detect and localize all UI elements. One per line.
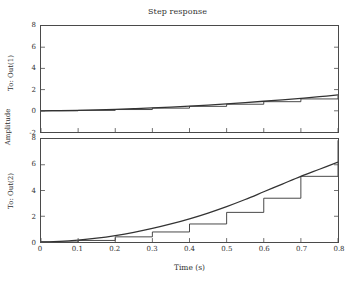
chart-title: Step response xyxy=(0,7,355,16)
y-tick-label: 4 xyxy=(6,64,36,72)
x-tick-label: 0.6 xyxy=(249,245,279,253)
y-tick-label: 2 xyxy=(6,86,36,94)
subplot-out1-plot-area xyxy=(40,25,339,133)
x-axis-label: Time (s) xyxy=(40,263,339,272)
subplot-out2-canvas xyxy=(41,139,338,242)
x-tick-label: 0.3 xyxy=(137,245,167,253)
subplot-out1-canvas xyxy=(41,26,338,132)
series-zero-order-hold xyxy=(41,140,338,242)
x-tick-label: 0.1 xyxy=(62,245,92,253)
x-tick-label: 0.8 xyxy=(324,245,354,253)
y-axis-label-amplitude: Amplitude xyxy=(3,97,13,157)
y-tick-label: 8 xyxy=(6,21,36,29)
x-tick-label: 0.5 xyxy=(212,245,242,253)
x-tick-label: 0.4 xyxy=(175,245,205,253)
step-response-figure: Step response Amplitude To: Out(1) To: O… xyxy=(0,0,355,285)
y-tick-label: 8 xyxy=(6,134,36,142)
series-zero-order-hold xyxy=(41,95,338,110)
x-tick-label: 0.2 xyxy=(100,245,130,253)
y-tick-label: 6 xyxy=(6,160,36,168)
y-tick-label: 2 xyxy=(6,213,36,221)
x-tick-label: 0.7 xyxy=(287,245,317,253)
subplot-out2-plot-area xyxy=(40,138,339,243)
y-tick-label: 6 xyxy=(6,43,36,51)
y-tick-label: 4 xyxy=(6,187,36,195)
y-tick-label: 0 xyxy=(6,107,36,115)
x-tick-label: 0 xyxy=(25,245,55,253)
